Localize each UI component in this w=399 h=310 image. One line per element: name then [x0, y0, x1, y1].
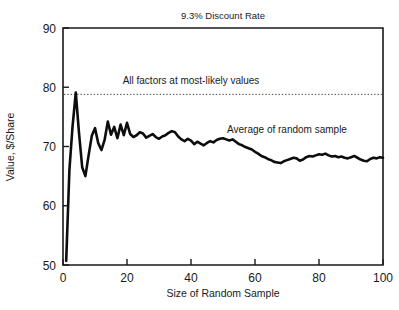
x-tick-label: 0: [60, 271, 67, 285]
y-tick-label: 60: [43, 199, 57, 213]
x-tick-label: 40: [184, 271, 198, 285]
y-axis-title: Value, $/Share: [4, 112, 16, 181]
x-tick-label: 20: [120, 271, 134, 285]
annotation-most-likely-line-label: All factors at most-likely values: [123, 75, 260, 86]
chart-title: 9.3% Discount Rate: [181, 10, 265, 21]
x-tick-label: 60: [248, 271, 262, 285]
annotation-average-curve-label: Average of random sample: [227, 124, 347, 135]
chart-canvas: 9.3% Discount Rate 5060708090 0204060801…: [0, 0, 399, 310]
x-axis-title: Size of Random Sample: [166, 287, 279, 299]
y-tick-label: 80: [43, 81, 57, 95]
y-tick-label: 90: [43, 22, 57, 36]
chart-figure: 9.3% Discount Rate 5060708090 0204060801…: [0, 0, 399, 310]
x-tick-label: 80: [312, 271, 326, 285]
chart-background: [0, 0, 399, 310]
x-tick-label: 100: [373, 271, 393, 285]
y-tick-label: 70: [43, 140, 57, 154]
y-tick-label: 50: [43, 259, 57, 273]
